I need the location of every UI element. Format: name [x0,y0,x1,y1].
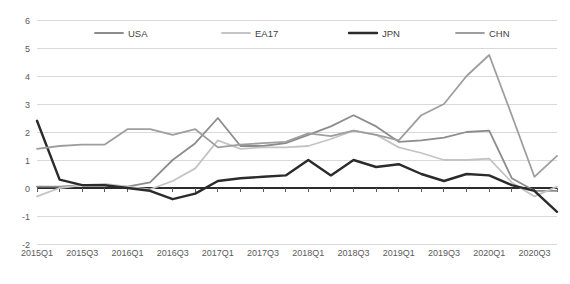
y-tick-label-4: 4 [25,72,30,82]
y-tick-label-6: 6 [25,16,30,26]
x-tick-label-11: 2020Q3 [518,248,550,258]
x-tick-label-7: 2018Q3 [338,248,370,258]
y-tick-label-3: 3 [25,100,30,110]
legend-label-jpn: JPN [382,28,400,39]
y-tick-label-1: 1 [25,156,30,166]
y-tick-label-2: 2 [25,128,30,138]
legend-label-chn: CHN [489,28,510,39]
series-line-usa [37,115,557,191]
x-tick-label-9: 2019Q3 [428,248,460,258]
x-tick-label-3: 2016Q3 [157,248,189,258]
legend-label-usa: USA [128,28,148,39]
x-tick-label-0: 2015Q1 [21,248,53,258]
y-tick-label-5: 5 [25,44,30,54]
x-tick-label-6: 2018Q1 [292,248,324,258]
y-tick-label--1: -1 [22,212,30,222]
x-tick-label-5: 2017Q3 [247,248,279,258]
x-tick-label-8: 2019Q1 [383,248,415,258]
chart-canvas: -2-101234562015Q12015Q32016Q12016Q32017Q… [0,0,570,284]
x-tick-label-10: 2020Q1 [473,248,505,258]
x-tick-label-4: 2017Q1 [202,248,234,258]
x-tick-label-1: 2015Q3 [66,248,98,258]
legend-label-ea17: EA17 [255,28,278,39]
x-tick-label-2: 2016Q1 [111,248,143,258]
line-chart: -2-101234562015Q12015Q32016Q12016Q32017Q… [0,0,570,284]
series-line-jpn [37,121,557,212]
y-tick-label-0: 0 [25,184,30,194]
